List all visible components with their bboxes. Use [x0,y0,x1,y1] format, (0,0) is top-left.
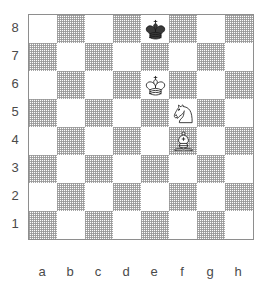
square-e3[interactable] [141,155,169,183]
rank-label-4: 4 [6,126,24,154]
king-icon[interactable] [141,71,169,99]
square-a8[interactable] [29,15,57,43]
square-c2[interactable] [85,183,113,211]
square-b2[interactable] [57,183,85,211]
file-label-d: d [112,262,140,282]
square-f4[interactable] [169,127,197,155]
square-g5[interactable] [197,99,225,127]
square-h2[interactable] [225,183,253,211]
square-d3[interactable] [113,155,141,183]
rank-label-3: 3 [6,154,24,182]
rank-label-8: 8 [6,14,24,42]
square-e1[interactable] [141,211,169,239]
square-h7[interactable] [225,43,253,71]
square-e5[interactable] [141,99,169,127]
square-c8[interactable] [85,15,113,43]
file-label-f: f [168,262,196,282]
rank-labels: 87654321 [6,14,24,238]
square-g1[interactable] [197,211,225,239]
square-d8[interactable] [113,15,141,43]
square-f2[interactable] [169,183,197,211]
square-d1[interactable] [113,211,141,239]
square-c3[interactable] [85,155,113,183]
square-a6[interactable] [29,71,57,99]
square-f1[interactable] [169,211,197,239]
square-d7[interactable] [113,43,141,71]
square-a1[interactable] [29,211,57,239]
chess-board-grid[interactable] [29,15,253,239]
square-c1[interactable] [85,211,113,239]
square-a7[interactable] [29,43,57,71]
square-g3[interactable] [197,155,225,183]
square-a4[interactable] [29,127,57,155]
square-b3[interactable] [57,155,85,183]
square-g4[interactable] [197,127,225,155]
square-e7[interactable] [141,43,169,71]
square-d6[interactable] [113,71,141,99]
rank-label-5: 5 [6,98,24,126]
square-h3[interactable] [225,155,253,183]
chess-diagram: 87654321 abcdefgh [0,0,266,296]
file-label-c: c [84,262,112,282]
square-e4[interactable] [141,127,169,155]
square-f7[interactable] [169,43,197,71]
square-b8[interactable] [57,15,85,43]
square-h6[interactable] [225,71,253,99]
rank-label-6: 6 [6,70,24,98]
square-c7[interactable] [85,43,113,71]
square-c4[interactable] [85,127,113,155]
square-g6[interactable] [197,71,225,99]
square-e8[interactable] [141,15,169,43]
bishop-icon[interactable] [169,127,197,155]
square-b1[interactable] [57,211,85,239]
square-h4[interactable] [225,127,253,155]
square-e6[interactable] [141,71,169,99]
square-b6[interactable] [57,71,85,99]
square-c6[interactable] [85,71,113,99]
square-a5[interactable] [29,99,57,127]
file-label-g: g [196,262,224,282]
king-icon[interactable] [141,15,169,43]
square-d4[interactable] [113,127,141,155]
square-b7[interactable] [57,43,85,71]
square-g2[interactable] [197,183,225,211]
square-e2[interactable] [141,183,169,211]
file-label-a: a [28,262,56,282]
square-f8[interactable] [169,15,197,43]
rank-label-1: 1 [6,210,24,238]
knight-icon[interactable] [169,99,197,127]
square-h5[interactable] [225,99,253,127]
square-g7[interactable] [197,43,225,71]
square-h1[interactable] [225,211,253,239]
square-f5[interactable] [169,99,197,127]
square-f3[interactable] [169,155,197,183]
rank-label-2: 2 [6,182,24,210]
rank-label-7: 7 [6,42,24,70]
file-label-e: e [140,262,168,282]
square-a2[interactable] [29,183,57,211]
square-b5[interactable] [57,99,85,127]
square-c5[interactable] [85,99,113,127]
square-f6[interactable] [169,71,197,99]
square-b4[interactable] [57,127,85,155]
square-h8[interactable] [225,15,253,43]
file-label-h: h [224,262,252,282]
square-a3[interactable] [29,155,57,183]
square-d5[interactable] [113,99,141,127]
chess-board-frame [28,14,254,240]
file-labels: abcdefgh [28,262,252,282]
square-d2[interactable] [113,183,141,211]
file-label-b: b [56,262,84,282]
square-g8[interactable] [197,15,225,43]
